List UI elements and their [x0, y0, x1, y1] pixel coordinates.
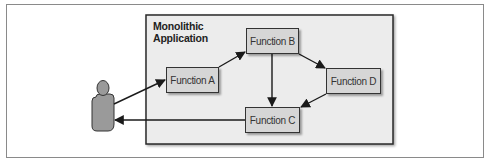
person-head [97, 81, 109, 96]
person-body [92, 94, 114, 131]
diagram-canvas [0, 0, 492, 165]
node-function-a: Function A [166, 67, 219, 93]
monolith-title: Monolithic Application [153, 20, 208, 44]
monolith-title-line2: Application [153, 32, 208, 44]
node-function-c: Function C [245, 107, 300, 133]
user-person-icon [92, 81, 114, 132]
node-function-d: Function D [326, 68, 381, 94]
node-function-b: Function B [246, 28, 299, 54]
monolith-title-line1: Monolithic [153, 20, 208, 32]
